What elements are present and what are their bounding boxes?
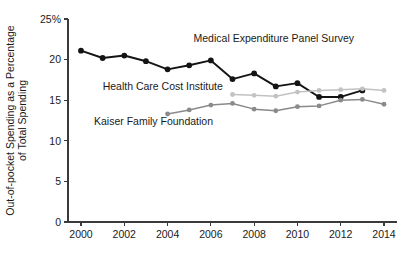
y-tick-label: 15 [49, 94, 61, 106]
chart-series-labels: Medical Expenditure Panel SurveyHealth C… [94, 32, 355, 128]
y-axis-title-line1: Out-of-pocket Spending as a Percentage [4, 25, 16, 215]
series-data-point [317, 103, 322, 108]
y-axis-title-line2: of Total Spending [16, 80, 28, 161]
line-chart-svg: 0510152025%20002002200420062008201020122… [0, 0, 411, 261]
series-label-3: Kaiser Family Foundation [94, 115, 213, 127]
y-tick-label: 10 [49, 135, 61, 147]
series-data-point [78, 48, 84, 54]
series-data-point [186, 62, 192, 68]
series-data-point [338, 87, 343, 92]
series-data-point [187, 108, 192, 113]
y-tick-label: 25% [40, 13, 61, 25]
chart-figure: 0510152025%20002002200420062008201020122… [0, 0, 411, 261]
series-data-point [143, 58, 149, 64]
series-data-point [273, 84, 279, 90]
series-data-point [338, 98, 343, 103]
y-tick-label: 20 [49, 53, 61, 65]
series-label-1: Medical Expenditure Panel Survey [194, 32, 355, 44]
series-data-point [230, 76, 236, 82]
series-data-point [295, 80, 301, 86]
y-axis-title: Out-of-pocket Spending as a Percentageof… [4, 25, 28, 215]
x-tick-label: 2006 [199, 228, 223, 240]
series-data-point [251, 71, 257, 77]
series-data-point [317, 88, 322, 93]
series-data-point [208, 58, 214, 64]
y-tick-label: 0 [55, 216, 61, 228]
series-data-point [121, 53, 127, 59]
series-data-point [165, 66, 171, 72]
x-tick-label: 2012 [329, 228, 353, 240]
series-data-point [360, 97, 365, 102]
x-tick-label: 2004 [156, 228, 180, 240]
x-tick-label: 2014 [372, 228, 396, 240]
x-tick-label: 2002 [113, 228, 137, 240]
series-data-point [295, 90, 300, 95]
series-data-point [295, 104, 300, 109]
series-data-point [100, 55, 106, 61]
x-tick-label: 2010 [286, 228, 310, 240]
series-1 [78, 48, 365, 100]
y-tick-label: 5 [55, 175, 61, 187]
x-tick-label: 2000 [69, 228, 93, 240]
series-data-point [252, 93, 257, 98]
series-data-point [273, 108, 278, 113]
series-data-point [230, 92, 235, 97]
series-data-point [252, 107, 257, 112]
x-tick-label: 2008 [242, 228, 266, 240]
series-data-point [208, 103, 213, 108]
series-data-point [382, 102, 387, 107]
series-label-2: Health Care Cost Institute [103, 80, 223, 92]
series-data-point [316, 94, 322, 100]
series-data-point [273, 94, 278, 99]
series-data-point [382, 88, 387, 93]
series-data-point [230, 101, 235, 106]
series-data-point [360, 86, 365, 91]
series-3 [165, 97, 386, 116]
